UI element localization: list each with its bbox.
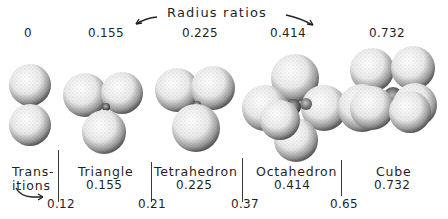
label-octahedron: Octahedron bbox=[256, 164, 337, 179]
diagram-title: Radius ratios bbox=[167, 5, 267, 20]
ratio-triangle: 0.155 bbox=[86, 178, 122, 192]
transition-value: 0.37 bbox=[231, 197, 259, 211]
divider-line bbox=[151, 162, 152, 202]
cube-eight-spheres bbox=[338, 46, 437, 133]
transition-value: 0.12 bbox=[47, 197, 75, 211]
top-ratio-octahedron: 0.414 bbox=[270, 26, 306, 40]
label-cube: Cube bbox=[376, 164, 411, 179]
ratio-tetrahedron: 0.225 bbox=[176, 178, 212, 192]
top-ratio-cube: 0.732 bbox=[369, 26, 405, 40]
label-tetrahedron: Tetrahedron bbox=[154, 164, 238, 179]
ratio-octahedron: 0.414 bbox=[274, 178, 310, 192]
triangle-three-spheres bbox=[63, 72, 143, 154]
divider-line bbox=[242, 158, 243, 202]
top-ratio-tetrahedron: 0.225 bbox=[182, 26, 218, 40]
label-transitions-line1: Trans- bbox=[12, 164, 54, 179]
top-ratio-transitions: 0 bbox=[24, 26, 32, 40]
two-sphere-linear bbox=[9, 64, 51, 146]
divider-line bbox=[58, 150, 59, 202]
label-transitions-line2: itions bbox=[12, 178, 51, 193]
ratio-cube: 0.732 bbox=[374, 178, 410, 192]
divider-line bbox=[341, 160, 342, 196]
tetrahedron-four-spheres bbox=[155, 66, 235, 152]
transition-value: 0.65 bbox=[330, 197, 358, 211]
transition-value: 0.21 bbox=[138, 197, 166, 211]
octahedron-six-spheres bbox=[242, 54, 347, 162]
right-arrow-icon bbox=[286, 15, 313, 25]
left-arrow-icon bbox=[136, 17, 157, 24]
top-ratio-triangle: 0.155 bbox=[88, 26, 124, 40]
label-triangle: Triangle bbox=[78, 164, 134, 179]
